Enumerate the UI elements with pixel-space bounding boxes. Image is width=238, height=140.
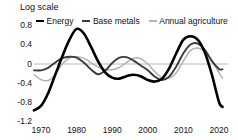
x-tick-label: 1980	[67, 126, 86, 135]
x-tick-label: 1990	[103, 126, 122, 135]
x-tick-label: 2000	[138, 126, 157, 135]
x-tick-label: 1970	[32, 126, 51, 135]
line-chart: Log scale Energy Base metals Annual agri…	[0, 0, 238, 140]
x-tick-label: 2010	[174, 126, 193, 135]
x-tick-label: 2020	[210, 126, 229, 135]
x-axis-labels: 1970 1980 1990 2000 2010 2020	[0, 0, 238, 140]
